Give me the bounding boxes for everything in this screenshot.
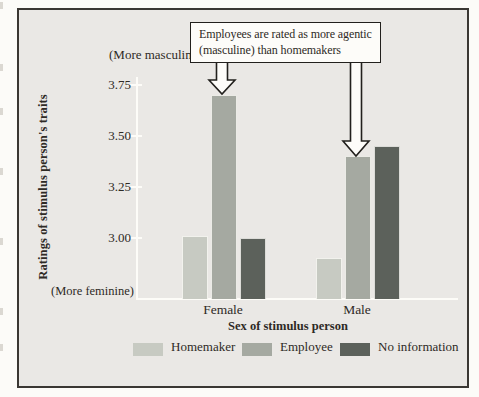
down-arrow-icon bbox=[209, 62, 235, 94]
bar-no-information-female bbox=[240, 238, 266, 299]
bar-homemaker-male bbox=[316, 258, 342, 299]
y-tick-label: 3.75 bbox=[88, 77, 131, 93]
legend-swatch-employee bbox=[242, 343, 272, 356]
y-tick-label: 3.25 bbox=[88, 179, 131, 195]
legend-label-no-information: No information bbox=[378, 340, 466, 355]
bar-no-information-male bbox=[374, 146, 400, 299]
bar-employee-female bbox=[211, 95, 237, 299]
bar-chart: (More masculine) (More feminine) Ratings… bbox=[0, 0, 479, 397]
annotation-callout: Employees are rated as more agentic (mas… bbox=[190, 22, 381, 63]
legend-swatch-homemaker bbox=[133, 343, 163, 356]
bar-homemaker-female bbox=[182, 236, 208, 299]
down-arrow-icon bbox=[343, 62, 369, 156]
category-label: Male bbox=[312, 302, 402, 318]
bar-employee-male bbox=[345, 156, 371, 299]
book-figure-page: (More masculine) (More feminine) Ratings… bbox=[0, 0, 479, 397]
legend-swatch-no-information bbox=[340, 343, 370, 356]
callout-text-line2: (masculine) than homemakers bbox=[199, 42, 372, 58]
x-axis-title: Sex of stimulus person bbox=[228, 319, 348, 334]
y-axis-annotation-more-feminine: (More feminine) bbox=[40, 284, 134, 299]
y-tick-label: 3.00 bbox=[88, 230, 131, 246]
y-axis-annotation-more-masculine: (More masculine) bbox=[109, 47, 202, 63]
callout-text-line1: Employees are rated as more agentic bbox=[199, 26, 372, 42]
y-axis-title: Ratings of stimulus person's traits bbox=[36, 94, 51, 279]
y-tick-label: 3.50 bbox=[88, 128, 131, 144]
category-label: Female bbox=[178, 302, 268, 318]
